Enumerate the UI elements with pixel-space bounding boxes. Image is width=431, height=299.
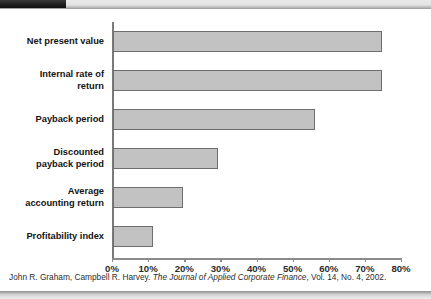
bar	[113, 109, 315, 130]
x-axis-tick	[329, 258, 330, 262]
top-left-dark-block	[0, 0, 66, 8]
category-label: Profitability index	[0, 217, 104, 256]
citation-authors: John R. Graham, Campbell R. Harvey.	[9, 272, 150, 282]
category-label-line: Average	[25, 186, 104, 198]
bar-row: Payback period	[0, 100, 431, 139]
category-label: Averageaccounting return	[0, 178, 104, 217]
x-axis-tick	[365, 258, 366, 262]
bar-row: Averageaccounting return	[0, 178, 431, 217]
category-label-line: accounting return	[25, 198, 104, 210]
category-label: Internal rate ofreturn	[0, 61, 104, 100]
x-axis-tick	[112, 258, 113, 262]
bar	[113, 187, 183, 208]
category-label-line: Discounted	[36, 147, 104, 159]
bar	[113, 226, 153, 247]
category-label-line: Payback period	[36, 114, 104, 126]
x-axis-tick	[148, 258, 149, 262]
x-axis-tick	[220, 258, 221, 262]
source-citation: John R. Graham, Campbell R. Harvey. The …	[9, 272, 427, 282]
category-label-line: payback period	[36, 159, 104, 171]
x-axis-tick	[184, 258, 185, 262]
bar	[113, 70, 382, 91]
citation-volume: , Vol. 14, No. 4, 2002.	[306, 272, 386, 282]
x-axis-tick	[401, 258, 402, 262]
bar-row: Discountedpayback period	[0, 139, 431, 178]
bar	[113, 31, 382, 52]
category-label-line: Profitability index	[26, 231, 104, 243]
category-label: Payback period	[0, 100, 104, 139]
bar	[113, 148, 218, 169]
category-label-line: return	[40, 81, 104, 93]
category-label-line: Internal rate of	[40, 69, 104, 81]
bar-row: Net present value	[0, 22, 431, 61]
x-axis-tick	[257, 258, 258, 262]
bar-row: Internal rate ofreturn	[0, 61, 431, 100]
x-axis-tick	[293, 258, 294, 262]
category-label-line: Net present value	[27, 36, 104, 48]
category-label: Discountedpayback period	[0, 139, 104, 178]
citation-journal: The Journal of Applied Corporate Finance	[153, 272, 307, 282]
bottom-decorative-rule	[0, 291, 431, 299]
bar-chart: Net present valueInternal rate ofreturnP…	[0, 9, 431, 291]
category-label: Net present value	[0, 22, 104, 61]
bar-row: Profitability index	[0, 217, 431, 256]
